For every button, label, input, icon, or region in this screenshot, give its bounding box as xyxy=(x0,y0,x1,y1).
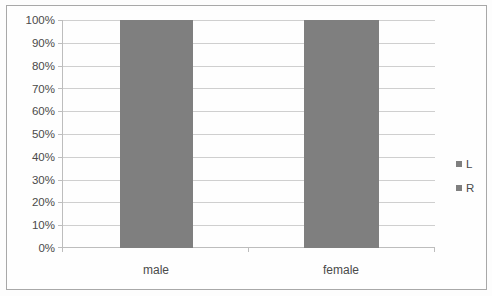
gridline-60 xyxy=(62,111,435,112)
y-tick-label-70: 70% xyxy=(5,83,55,95)
legend-item-L: L xyxy=(456,158,472,170)
plot-area xyxy=(62,20,435,248)
y-tick-label-30: 30% xyxy=(5,174,55,186)
x-tick xyxy=(248,248,249,252)
legend-swatch-icon xyxy=(456,185,462,191)
gridline-10 xyxy=(62,225,435,226)
y-tick-label-60: 60% xyxy=(5,105,55,117)
bar-female-R xyxy=(304,20,379,248)
y-axis xyxy=(62,20,63,248)
y-tick-label-50: 50% xyxy=(5,128,55,140)
x-tick xyxy=(62,248,63,252)
legend-label: L xyxy=(466,158,472,170)
gridline-20 xyxy=(62,202,435,203)
y-tick-label-40: 40% xyxy=(5,151,55,163)
gridline-50 xyxy=(62,134,435,135)
x-label-female: female xyxy=(291,263,391,277)
x-tick xyxy=(434,248,435,252)
bar-male-R xyxy=(120,20,193,248)
gridline-80 xyxy=(62,66,435,67)
gridline-90 xyxy=(62,43,435,44)
y-tick-label-80: 80% xyxy=(5,60,55,72)
legend-label: R xyxy=(466,182,474,194)
y-tick-label-100: 100% xyxy=(5,14,55,26)
y-tick-label-90: 90% xyxy=(5,37,55,49)
gridline-100 xyxy=(62,20,435,21)
gridline-30 xyxy=(62,180,435,181)
gridline-40 xyxy=(62,157,435,158)
gridline-70 xyxy=(62,88,435,89)
legend-item-R: R xyxy=(456,182,474,194)
legend-swatch-icon xyxy=(456,161,462,167)
y-tick-label-10: 10% xyxy=(5,219,55,231)
y-tick-label-20: 20% xyxy=(5,196,55,208)
x-label-male: male xyxy=(106,263,206,277)
y-tick-label-0: 0% xyxy=(5,242,55,254)
